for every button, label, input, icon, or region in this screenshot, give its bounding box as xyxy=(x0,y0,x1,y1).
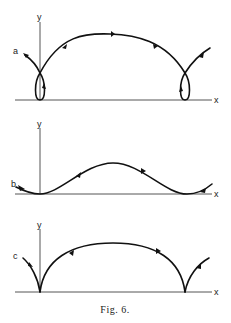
panel-label-a: a xyxy=(13,46,18,56)
trajectory-loop xyxy=(181,73,190,100)
trajectory-curve xyxy=(40,34,185,73)
trajectory-curve xyxy=(23,258,40,292)
y-axis-label: y xyxy=(37,220,42,230)
x-axis-label: x xyxy=(214,287,219,297)
panel-c: y x c xyxy=(13,220,219,297)
panel-label-b: b xyxy=(11,179,16,189)
panel-a: y x a xyxy=(13,12,219,105)
x-axis-label: x xyxy=(214,189,219,199)
y-axis-label: y xyxy=(37,12,42,22)
y-axis-label: y xyxy=(37,119,42,129)
trajectory-curve xyxy=(25,55,40,73)
trajectory-curve xyxy=(185,258,209,292)
direction-arrow-icon xyxy=(28,262,33,267)
direction-arrow-icon xyxy=(196,263,201,269)
direction-arrow-icon xyxy=(111,31,115,37)
direction-arrow-icon xyxy=(42,83,46,89)
x-axis-label: x xyxy=(214,95,219,105)
direction-arrow-icon xyxy=(179,86,183,92)
figure-6: y x a y x b y x xyxy=(0,0,231,323)
figure-caption: Fig. 6. xyxy=(100,304,129,315)
trajectory-curve xyxy=(185,48,210,73)
panel-label-c: c xyxy=(13,251,18,261)
panel-b: y x b xyxy=(11,119,219,199)
trajectory-curve xyxy=(16,163,212,194)
trajectory-cycloid-arch xyxy=(40,243,185,292)
